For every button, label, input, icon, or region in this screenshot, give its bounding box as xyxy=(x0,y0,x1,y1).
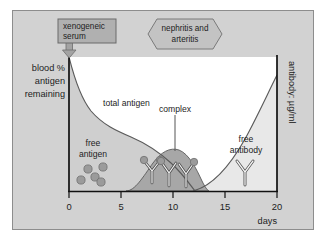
xenogeneic-serum-label-line-2: serum xyxy=(63,32,86,41)
x-axis-title: days xyxy=(258,216,278,226)
free-antibody-label-line-2: antibody xyxy=(230,145,263,155)
x-tick-label-20: 20 xyxy=(272,201,282,212)
nephritis-label-line-1: nephritis and xyxy=(162,24,209,33)
antigen-dot xyxy=(84,165,92,173)
bound-antigen-dot xyxy=(157,157,164,164)
x-tick-label-5: 5 xyxy=(118,201,123,212)
bound-antigen-dot xyxy=(190,158,197,165)
xenogeneic-serum-banner: xenogeneic serum xyxy=(58,19,116,43)
y-axis-title-line-3: remaining xyxy=(25,89,65,99)
antigen-dot xyxy=(97,178,105,186)
x-tick-label-10: 10 xyxy=(168,201,178,212)
x-tick-label-15: 15 xyxy=(220,201,230,212)
free-antigen-label-line-2: antigen xyxy=(79,149,107,159)
y-axis-title-line-2: antigen xyxy=(35,76,65,86)
figure-panel: 0 5 10 15 20 days blood % antigen remain… xyxy=(12,10,314,230)
complex-label: complex xyxy=(159,104,192,114)
diagram-canvas: 0 5 10 15 20 days blood % antigen remain… xyxy=(13,11,315,231)
bound-antigen-dot xyxy=(140,156,147,163)
y-axis-title-line-1: blood % xyxy=(32,63,65,73)
x-tick-label-0: 0 xyxy=(66,201,71,212)
xenogeneic-serum-label-line-1: xenogeneic xyxy=(63,22,105,31)
nephritis-label-line-2: arteritis xyxy=(172,35,199,44)
free-antigen-label-line-1: free xyxy=(86,138,101,148)
serum-injection-arrow xyxy=(63,42,77,58)
x-axis-ticks xyxy=(69,192,277,198)
nephritis-arteritis-banner: nephritis and arteritis xyxy=(148,19,222,49)
total-antigen-label: total antigen xyxy=(103,98,150,108)
antigen-dot xyxy=(99,163,107,171)
right-axis-title: antibody: µg/ml xyxy=(287,61,297,124)
free-antibody-label-line-1: free xyxy=(239,134,254,144)
antigen-dot xyxy=(77,176,85,184)
